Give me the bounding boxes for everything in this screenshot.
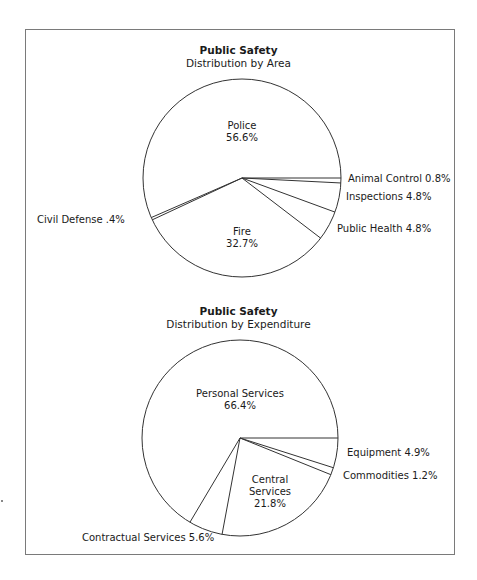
central-services-line1: Central: [245, 474, 295, 486]
expenditure-pie: [142, 340, 338, 536]
central-services-line2: Services: [245, 486, 295, 498]
label-commodities: Commodities 1.2%: [343, 470, 437, 482]
central-services-pct: 21.8%: [245, 498, 295, 510]
label-inspections: Inspections 4.8%: [346, 191, 431, 203]
label-civil-defense: Civil Defense .4%: [37, 214, 125, 226]
fire-pct: 32.7%: [212, 238, 272, 250]
label-contractual-services: Contractual Services 5.6%: [82, 532, 214, 544]
pie-charts-canvas: [0, 0, 477, 580]
label-police: Police 56.6%: [212, 120, 272, 144]
label-personal-services: Personal Services 66.4%: [190, 388, 290, 412]
fire-name: Fire: [212, 226, 272, 238]
label-public-health: Public Health 4.8%: [337, 223, 431, 235]
police-name: Police: [212, 120, 272, 132]
police-pct: 56.6%: [212, 132, 272, 144]
personal-services-pct: 66.4%: [190, 400, 290, 412]
label-fire: Fire 32.7%: [212, 226, 272, 250]
personal-services-name: Personal Services: [190, 388, 290, 400]
label-animal-control: Animal Control 0.8%: [348, 173, 451, 185]
label-equipment: Equipment 4.9%: [347, 447, 430, 459]
label-central-services: Central Services 21.8%: [245, 474, 295, 510]
